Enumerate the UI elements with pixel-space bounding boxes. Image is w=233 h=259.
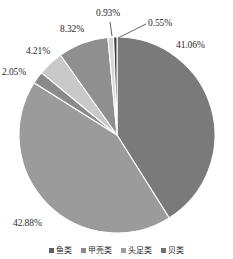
legend-swatch-icon [161,248,166,253]
data-label-2-05: 2.05% [2,67,26,77]
data-label-8-32: 8.32% [60,24,84,34]
legend-swatch-icon [81,248,86,253]
leader-line-0-55 [118,24,146,38]
leader-line-0-93 [110,22,112,36]
chart-legend: 鱼类 甲壳类 头足类 贝类 [0,241,233,259]
data-label-42-88: 42.88% [13,218,42,228]
legend-item-cephalopod[interactable]: 头足类 [121,246,152,255]
leader-line-group [110,22,146,38]
legend-item-label: 贝类 [168,246,184,255]
data-label-41-06: 41.06% [176,40,205,50]
data-label-0-55: 0.55% [148,18,172,28]
data-label-4-21: 4.21% [26,46,50,56]
pie-chart: 41.06% 42.88% 2.05% 4.21% 8.32% 0.93% 0.… [0,0,233,259]
legend-item-crustacean[interactable]: 甲壳类 [81,246,112,255]
legend-item-label: 头足类 [128,246,152,255]
legend-item-shellfish[interactable]: 贝类 [161,246,184,255]
legend-swatch-icon [121,248,126,253]
legend-item-fish[interactable]: 鱼类 [49,246,72,255]
legend-item-label: 鱼类 [56,246,72,255]
legend-item-label: 甲壳类 [88,246,112,255]
data-label-0-93: 0.93% [96,8,120,18]
legend-swatch-icon [49,248,54,253]
pie-slice-group [19,37,215,233]
